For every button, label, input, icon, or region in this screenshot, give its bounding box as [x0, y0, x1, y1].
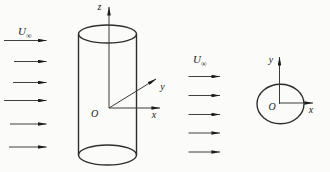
circle-diagram: y x O [257, 54, 314, 124]
middle-freestream-label: U∞ [193, 53, 207, 68]
freestream-subscript: ∞ [26, 31, 32, 40]
cylinder-cross-section-circle [257, 84, 304, 123]
figure-svg: U∞ z y x O U∞ y x O [0, 0, 330, 172]
freestream-subscript: ∞ [201, 59, 207, 68]
origin-label: O [91, 108, 98, 119]
y-axis-label: y [159, 81, 165, 92]
left-freestream-label: U∞ [18, 25, 32, 40]
y-axis [109, 79, 156, 108]
middle-flow-arrows [189, 77, 221, 153]
z-axis-label: z [97, 1, 102, 12]
x-axis-label: x [151, 109, 157, 120]
cylinder-bottom-ellipse [79, 145, 137, 165]
x-axis-label: x [308, 104, 314, 115]
cylinder-top-ellipse [79, 25, 137, 43]
origin-label: O [268, 101, 275, 112]
y-axis-label: y [268, 54, 274, 65]
left-flow-arrows [4, 41, 47, 148]
cylinder-diagram: z y x O [79, 1, 166, 166]
flow-past-cylinder-figure: U∞ z y x O U∞ y x O [0, 0, 330, 172]
